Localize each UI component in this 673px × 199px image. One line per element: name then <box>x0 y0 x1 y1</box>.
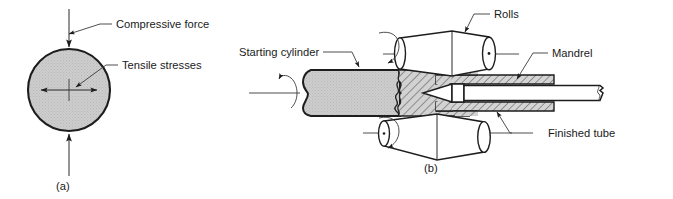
compressive-force-label: Compressive force <box>116 18 209 30</box>
figure-rotary-tube-piercing: Compressive force Tensile stresses (a) <box>0 0 673 199</box>
figure-canvas: Compressive force Tensile stresses (a) <box>0 0 673 199</box>
upper-roll <box>383 31 519 76</box>
panel-b: Starting cylinder <box>239 8 615 175</box>
lower-roll <box>363 114 512 160</box>
rolls-leader <box>465 14 490 32</box>
panel-a-caption: (a) <box>56 180 70 192</box>
mandrel <box>423 84 603 102</box>
workpiece-rotation-arrow <box>279 75 297 108</box>
rolls-label: Rolls <box>494 8 519 20</box>
starting-cylinder-label: Starting cylinder <box>239 46 319 58</box>
starting-cylinder-leader <box>323 52 359 67</box>
mandrel-label: Mandrel <box>552 47 592 59</box>
finished-tube-leader <box>497 112 533 133</box>
tensile-stresses-label: Tensile stresses <box>122 59 202 71</box>
finished-tube-label: Finished tube <box>548 127 615 139</box>
panel-b-caption: (b) <box>424 162 438 174</box>
compressive-force-leader <box>69 24 112 34</box>
panel-a: Compressive force Tensile stresses (a) <box>28 9 209 192</box>
starting-cylinder <box>303 70 400 116</box>
